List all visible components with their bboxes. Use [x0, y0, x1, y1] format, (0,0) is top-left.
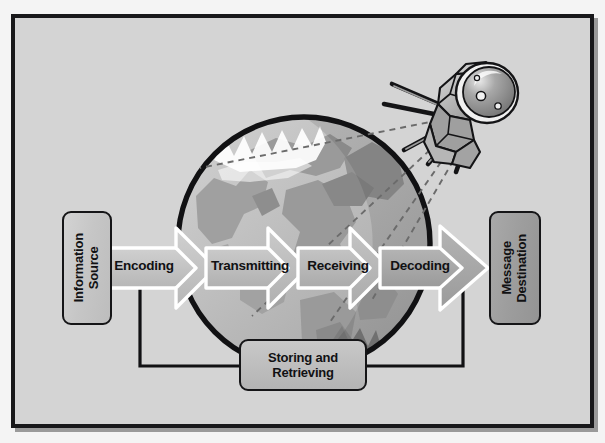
storing-label-line2: Retrieving — [272, 365, 334, 380]
information-source-box[interactable]: Information Source — [62, 211, 112, 325]
earth-globe — [178, 117, 430, 369]
message-destination-box[interactable]: Message Destination — [489, 211, 541, 325]
storing-label-line1: Storing and — [268, 350, 338, 365]
information-source-label: Information Source — [72, 233, 102, 302]
diagram-canvas: Information Source Message Destination S… — [0, 0, 605, 443]
sputnik-satellite — [384, 62, 518, 172]
message-destination-label: Message Destination — [500, 234, 530, 303]
storing-retrieving-box[interactable]: Storing and Retrieving — [239, 339, 367, 391]
